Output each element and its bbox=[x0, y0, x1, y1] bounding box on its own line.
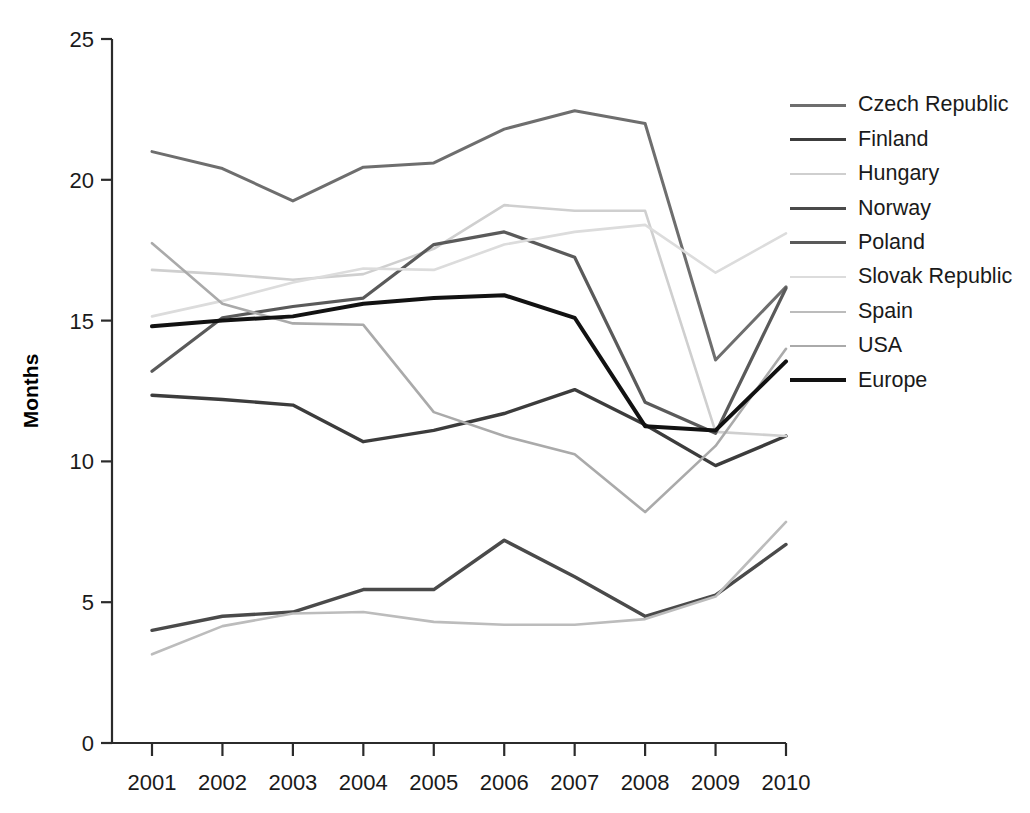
x-axis-tick-label: 2008 bbox=[621, 770, 670, 795]
legend-item-slovak-republic[interactable]: Slovak Republic bbox=[790, 260, 1026, 294]
series-line-czech-republic bbox=[152, 111, 786, 360]
series-line-norway bbox=[152, 540, 786, 630]
x-axis-tick-label: 2004 bbox=[339, 770, 388, 795]
legend-swatch-icon bbox=[790, 173, 846, 175]
legend-item-label: Finland bbox=[858, 129, 929, 151]
legend-item-label: Spain bbox=[858, 301, 913, 323]
y-axis-tick-label: 20 bbox=[70, 168, 94, 193]
x-axis-tick-label: 2006 bbox=[480, 770, 529, 795]
legend-item-label: Poland bbox=[858, 232, 925, 254]
legend-item-hungary[interactable]: Hungary bbox=[790, 157, 1026, 191]
x-axis-tick-label: 2003 bbox=[268, 770, 317, 795]
legend-item-norway[interactable]: Norway bbox=[790, 191, 1026, 225]
x-axis-tick-label: 2010 bbox=[762, 770, 811, 795]
x-axis-tick-label: 2007 bbox=[550, 770, 599, 795]
legend-swatch-icon bbox=[790, 276, 846, 278]
legend-swatch-icon bbox=[790, 345, 846, 347]
legend-swatch-icon bbox=[790, 311, 846, 313]
y-axis-tick-label: 5 bbox=[82, 590, 94, 615]
legend-item-label: Slovak Republic bbox=[858, 266, 1012, 288]
y-axis-tick-label: 0 bbox=[82, 731, 94, 756]
x-axis-tick-label: 2009 bbox=[691, 770, 740, 795]
legend-item-poland[interactable]: Poland bbox=[790, 226, 1026, 260]
legend-item-finland[interactable]: Finland bbox=[790, 122, 1026, 156]
legend-swatch-icon bbox=[790, 207, 846, 210]
y-axis-tick-label: 15 bbox=[70, 309, 94, 334]
y-axis-tick-label: 10 bbox=[70, 449, 94, 474]
legend-item-label: Norway bbox=[858, 198, 931, 220]
legend-item-europe[interactable]: Europe bbox=[790, 363, 1026, 397]
series-line-usa bbox=[152, 243, 786, 512]
legend-swatch-icon bbox=[790, 104, 846, 107]
legend-item-czech-republic[interactable]: Czech Republic bbox=[790, 88, 1026, 122]
y-axis-tick-label: 25 bbox=[70, 27, 94, 52]
x-axis-tick-label: 2005 bbox=[409, 770, 458, 795]
y-axis-title: Months bbox=[19, 354, 42, 429]
legend-item-usa[interactable]: USA bbox=[790, 329, 1026, 363]
legend-item-label: Czech Republic bbox=[858, 94, 1009, 116]
x-axis-tick-label: 2002 bbox=[198, 770, 247, 795]
chart-figure: 0510152025200120022003200420052006200720… bbox=[0, 0, 1030, 813]
legend-item-label: Hungary bbox=[858, 163, 939, 185]
legend-item-label: USA bbox=[858, 335, 902, 357]
legend-swatch-icon bbox=[790, 378, 846, 382]
chart-legend: Czech RepublicFinlandHungaryNorwayPoland… bbox=[790, 88, 1026, 398]
legend-item-spain[interactable]: Spain bbox=[790, 294, 1026, 328]
series-line-spain bbox=[152, 522, 786, 654]
x-axis-tick-label: 2001 bbox=[128, 770, 177, 795]
legend-swatch-icon bbox=[790, 241, 846, 244]
legend-swatch-icon bbox=[790, 138, 846, 141]
legend-item-label: Europe bbox=[858, 370, 927, 392]
series-line-europe bbox=[152, 295, 786, 430]
